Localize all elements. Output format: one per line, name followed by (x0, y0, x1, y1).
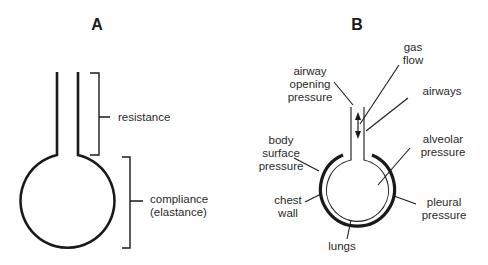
body-surface-label-1: body (269, 134, 294, 146)
panel-a: A resistance compliance (elastance) (20, 16, 208, 248)
gas-flow-label-1: gas (404, 41, 423, 53)
panel-b: B gas flow airway opening pressure ai (259, 16, 467, 252)
lungs-leader (347, 220, 351, 239)
compliance-bracket (122, 157, 143, 248)
airway-opening-label-3: pressure (288, 91, 333, 103)
lungs-label: lungs (328, 240, 356, 252)
pleural-leader (394, 196, 416, 204)
gas-flow-label-2: flow (403, 54, 424, 66)
compliance-label: compliance (150, 193, 208, 205)
resistance-label: resistance (118, 111, 170, 123)
airways-label: airways (423, 85, 462, 97)
resistance-bracket (90, 73, 110, 155)
respiratory-model-diagram: A resistance compliance (elastance) B (0, 0, 488, 265)
airways-leader (366, 98, 408, 131)
chest-wall-label-2: wall (277, 207, 298, 219)
airway-opening-label-2: opening (290, 78, 331, 90)
elastance-label: (elastance) (150, 206, 207, 218)
airway-opening-leader (334, 82, 353, 105)
chest-wall-label-1: chest (274, 194, 302, 206)
gas-flow-arrow-icon (355, 112, 361, 139)
pleural-label-2: pressure (422, 209, 467, 221)
panel-a-title: A (91, 16, 103, 33)
alveolar-label-2: pressure (421, 146, 466, 158)
pleural-label-1: pleural (427, 196, 462, 208)
alveolar-label-1: alveolar (423, 133, 463, 145)
gas-flow-leader (360, 65, 399, 124)
chest-wall-leader (305, 194, 321, 202)
panel-b-title: B (351, 16, 363, 33)
airway-tube-and-alveolus (20, 72, 114, 248)
airway-opening-label-1: airway (293, 65, 326, 77)
chest-wall-arc (321, 155, 395, 226)
body-surface-label-3: pressure (259, 160, 304, 172)
body-surface-label-2: surface (262, 147, 300, 159)
